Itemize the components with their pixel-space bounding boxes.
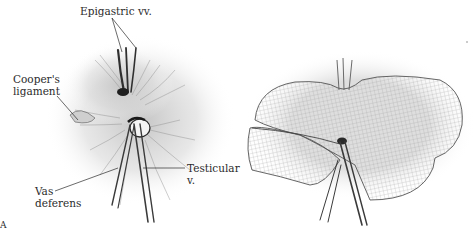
- coopers-ligament-label: Cooper's ligament: [13, 73, 60, 97]
- panel-letter: A: [0, 219, 7, 230]
- testicular-label-line2: v.: [187, 174, 240, 186]
- vas-label-line1: Vas: [35, 185, 81, 197]
- coopers-label-line1: Cooper's: [13, 73, 60, 85]
- vas-deferens-label: Vas deferens: [35, 185, 81, 209]
- left-illustration-panel: Epigastric vv. Cooper's ligament Testicu…: [0, 0, 240, 230]
- mesh-placement-drawing: [240, 0, 475, 230]
- right-illustration-panel: [240, 0, 475, 230]
- testicular-label-line1: Testicular: [187, 162, 240, 174]
- epigastric-label-text: Epigastric vv.: [80, 5, 152, 17]
- testicular-vein-label: Testicular v.: [187, 162, 240, 186]
- vas-label-line2: deferens: [35, 197, 81, 209]
- epigastric-vessels-label: Epigastric vv.: [80, 5, 152, 17]
- coopers-label-line2: ligament: [13, 85, 60, 97]
